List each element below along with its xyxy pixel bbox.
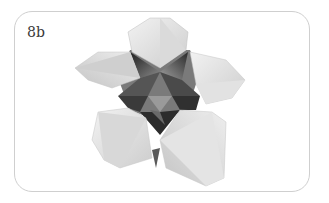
petal-bottom-left (92, 108, 152, 168)
origami-flower-image (0, 0, 329, 203)
flower-stem-tip (152, 148, 160, 168)
